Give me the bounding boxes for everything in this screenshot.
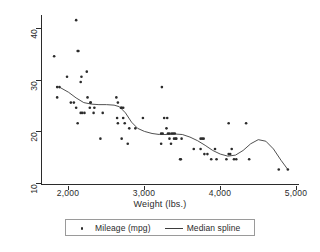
legend-entry-mileage: Mileage (mpg) bbox=[73, 219, 151, 237]
y-tick-label-40: 40 bbox=[29, 29, 39, 49]
legend-marker-dot-icon bbox=[73, 219, 91, 237]
median-spline-line bbox=[59, 87, 287, 169]
x-tick-label-2000: 2,000 bbox=[48, 188, 88, 198]
legend-label-mileage: Mileage (mpg) bbox=[95, 223, 151, 233]
chart-legend: Mileage (mpg) Median spline bbox=[65, 219, 255, 236]
plot-canvas bbox=[42, 15, 300, 185]
chart-screenshot: 40 30 20 10 2,000 3,000 4,000 5,000 Weig… bbox=[0, 0, 320, 252]
x-tick-label-4000: 4,000 bbox=[200, 188, 240, 198]
stata-graph: 40 30 20 10 2,000 3,000 4,000 5,000 Weig… bbox=[0, 0, 320, 252]
legend-marker-line-icon bbox=[165, 219, 183, 237]
legend-label-median-spline: Median spline bbox=[187, 223, 241, 233]
scatter-points bbox=[53, 19, 289, 171]
y-tick-label-20: 20 bbox=[29, 132, 39, 152]
legend-entry-median-spline: Median spline bbox=[165, 219, 241, 237]
x-tick-label-3000: 3,000 bbox=[124, 188, 164, 198]
y-tick-label-30: 30 bbox=[29, 81, 39, 101]
plot-area bbox=[41, 15, 299, 185]
x-tick-label-5000: 5,000 bbox=[276, 188, 316, 198]
x-axis-title: Weight (lbs.) bbox=[0, 199, 320, 209]
